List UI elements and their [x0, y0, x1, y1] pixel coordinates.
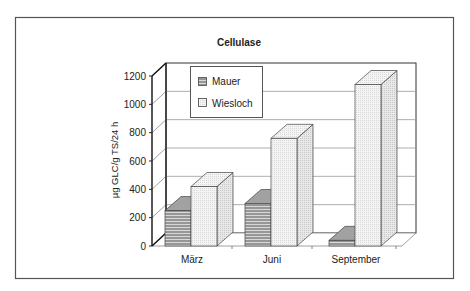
- y-tick-label: 800: [129, 127, 146, 138]
- chart-title: Cellulase: [217, 37, 261, 48]
- y-axis-label: µg GLC/g TS/24 h: [109, 122, 120, 199]
- x-tick-label: März: [181, 254, 203, 265]
- bar-wiesloch-0: [191, 173, 233, 247]
- legend-label-mauer: Mauer: [212, 76, 241, 87]
- x-tick-label: September: [332, 254, 382, 265]
- legend-label-wiesloch: Wiesloch: [212, 98, 253, 109]
- y-tick-label: 200: [129, 212, 146, 223]
- bar-wiesloch-2: [355, 71, 397, 247]
- y-tick-label: 400: [129, 184, 146, 195]
- dotted-swatch-icon: [199, 99, 207, 107]
- y-tick-label: 1000: [124, 99, 147, 110]
- bar-wiesloch-1: [271, 124, 313, 246]
- y-tick-label: 0: [140, 241, 146, 252]
- hatched-swatch-icon: [199, 78, 207, 86]
- legend: Mauer Wiesloch: [191, 67, 263, 118]
- x-tick-label: Juni: [263, 254, 281, 265]
- y-tick-label: 1200: [124, 71, 147, 82]
- cellulase-chart: Cellulase µg GLC/g TS/24 h 0200400600800…: [0, 0, 470, 291]
- y-tick-label: 600: [129, 156, 146, 167]
